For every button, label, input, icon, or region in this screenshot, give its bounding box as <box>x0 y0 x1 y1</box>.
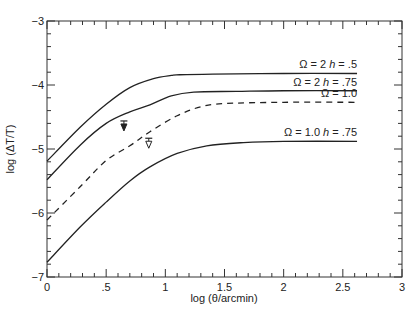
upper-limit-filled-triangle <box>121 124 127 131</box>
y-axis-label: log (ΔT/T) <box>4 125 16 174</box>
curve-label-1: Ω = 2 h = .5 <box>299 58 357 70</box>
x-tick-label: 3 <box>399 281 405 293</box>
curve-label-2: Ω = 2 h = .75 <box>293 76 357 88</box>
curve-labels: Ω = 2 h = .5Ω = 2 h = .75Ω = 1.0Ω = 1.0 … <box>284 58 357 138</box>
x-tick-label: 2.5 <box>335 281 350 293</box>
y-tick-label: −6 <box>31 207 44 219</box>
curves <box>47 73 357 262</box>
x-axis-label: log (θ/arcmin) <box>190 292 257 304</box>
curve-series-4 <box>47 141 357 262</box>
y-tick-label: −4 <box>31 79 44 91</box>
curve-series-3 <box>47 102 357 220</box>
y-tick-label: −5 <box>31 143 44 155</box>
markers <box>120 121 152 148</box>
x-tick-label: .5 <box>102 281 111 293</box>
x-tick-label: 1 <box>162 281 168 293</box>
y-tick-label: −7 <box>31 271 44 283</box>
x-tick-label: 0 <box>44 281 50 293</box>
upper-limit-open-triangle <box>146 141 152 148</box>
curve-label-3: Ω = 1.0 <box>321 87 357 99</box>
curve-label-4: Ω = 1.0 h = .75 <box>284 126 357 138</box>
y-tick-label: −3 <box>31 15 44 27</box>
x-tick-label: 2 <box>281 281 287 293</box>
chart: 0.511.522.53−3−4−5−6−7 Ω = 2 h = .5Ω = 2… <box>0 0 416 323</box>
tick-labels: 0.511.522.53−3−4−5−6−7 <box>31 15 405 293</box>
